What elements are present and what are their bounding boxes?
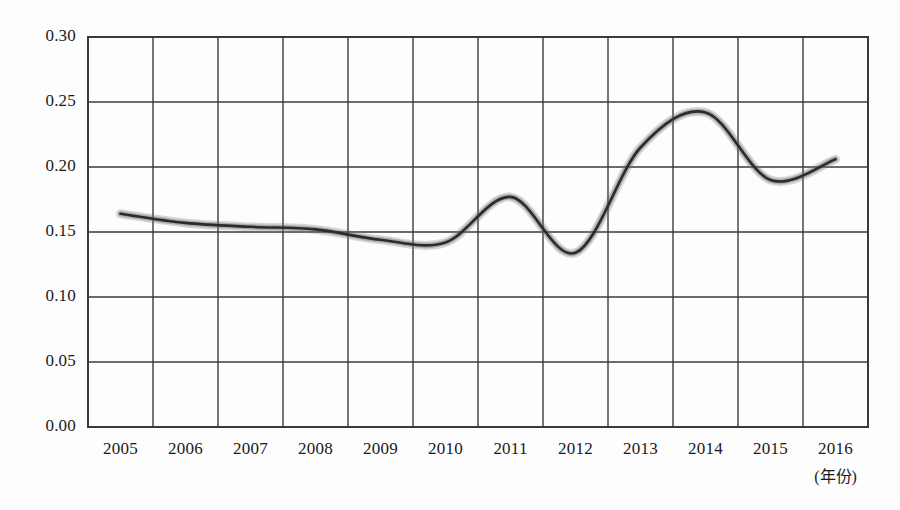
x-tick-label: 2012 <box>543 439 609 459</box>
grid-lines <box>88 37 868 427</box>
y-tick-label: 0.00 <box>20 416 76 436</box>
chart-canvas <box>0 0 900 510</box>
x-tick-label: 2008 <box>283 439 349 459</box>
y-tick-label: 0.10 <box>20 286 76 306</box>
y-tick-label: 0.25 <box>20 91 76 111</box>
y-tick-label: 0.05 <box>20 351 76 371</box>
x-tick-label: 2011 <box>478 439 544 459</box>
x-axis-unit-label: (年份) <box>801 463 871 487</box>
x-tick-label: 2005 <box>88 439 154 459</box>
x-tick-label: 2007 <box>218 439 284 459</box>
x-tick-label: 2013 <box>608 439 674 459</box>
x-tick-label: 2015 <box>738 439 804 459</box>
x-tick-label: 2016 <box>803 439 869 459</box>
x-tick-label: 2014 <box>673 439 739 459</box>
x-tick-label: 2006 <box>153 439 219 459</box>
y-tick-label: 0.30 <box>20 26 76 46</box>
y-tick-label: 0.15 <box>20 221 76 241</box>
line-chart: 0.000.050.100.150.200.250.30 20052006200… <box>0 0 900 510</box>
x-tick-label: 2010 <box>413 439 479 459</box>
y-tick-label: 0.20 <box>20 156 76 176</box>
x-tick-label: 2009 <box>348 439 414 459</box>
